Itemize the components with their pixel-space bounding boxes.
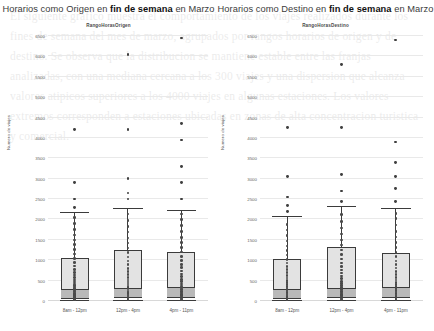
boxplot-12pm-4pm[interactable] bbox=[327, 36, 355, 301]
boxplot-4pm-11pm[interactable] bbox=[167, 36, 195, 301]
y-axis-tick-label: 2500 bbox=[35, 197, 45, 202]
chart-panel-destino: Horarios como Destino en fin de semana e… bbox=[217, 0, 434, 331]
boxplot-8am-12pm[interactable] bbox=[61, 36, 89, 301]
y-axis-tick-label: 4500 bbox=[247, 115, 257, 120]
data-point bbox=[286, 223, 289, 226]
data-point bbox=[73, 261, 76, 264]
outlier-point bbox=[127, 128, 130, 131]
whisker-cap-upper bbox=[327, 206, 357, 207]
data-point bbox=[395, 263, 398, 266]
y-axis-tick-label: 1000 bbox=[247, 258, 257, 263]
data-point bbox=[73, 279, 76, 282]
y-axis-tick-label: 1500 bbox=[247, 237, 257, 242]
y-axis-tick-label: 2500 bbox=[247, 197, 257, 202]
whisker-cap-upper bbox=[60, 212, 89, 213]
data-point bbox=[73, 271, 76, 274]
whisker-cap-upper bbox=[272, 216, 302, 217]
outlier-point bbox=[180, 165, 183, 168]
data-point bbox=[395, 270, 398, 273]
data-point bbox=[395, 281, 398, 284]
boxplot-12pm-4pm[interactable] bbox=[114, 36, 142, 301]
data-point bbox=[286, 229, 289, 232]
data-point bbox=[73, 268, 76, 271]
outlier-point bbox=[286, 196, 289, 199]
data-point bbox=[73, 234, 76, 237]
outlier-point bbox=[286, 210, 289, 213]
data-point bbox=[180, 246, 183, 249]
y-axis-tick-label: 5500 bbox=[35, 74, 45, 79]
y-axis-tick-label: 2000 bbox=[35, 217, 45, 222]
data-point bbox=[180, 236, 183, 239]
data-point bbox=[286, 245, 289, 248]
outlier-point bbox=[73, 206, 76, 209]
chart-title-destino: Horarios como Destino en fin de semana e… bbox=[217, 4, 434, 14]
data-point bbox=[286, 249, 289, 252]
chart-subtitle-origen: RangoHorasOrigen bbox=[0, 23, 217, 28]
chart-title-destino-prefix: Horarios como Destino en bbox=[218, 4, 329, 14]
y-axis-tick-label: 4000 bbox=[247, 135, 257, 140]
y-axis-tick-label: 3000 bbox=[35, 176, 45, 181]
data-point bbox=[127, 276, 130, 279]
data-point bbox=[127, 237, 130, 240]
outlier-point bbox=[394, 187, 397, 190]
y-axis-label-origen: Numero de viajes bbox=[6, 115, 11, 150]
y-axis-tick-label: 4000 bbox=[35, 135, 45, 140]
outlier-point bbox=[73, 128, 76, 131]
chart-title-destino-strong: fin de semana bbox=[329, 4, 392, 14]
chart-subtitle-destino: RangoHorasDestino bbox=[217, 23, 434, 28]
outlier-point bbox=[180, 198, 183, 201]
data-point bbox=[180, 270, 183, 273]
data-point bbox=[340, 284, 343, 287]
plot-area-destino: 0500100015002000250030003500400045005000… bbox=[260, 36, 423, 301]
chart-title-destino-suffix: en Marzo bbox=[392, 4, 434, 14]
outlier-point bbox=[127, 177, 130, 180]
outlier-point bbox=[180, 181, 183, 184]
y-axis-tick-label: 3000 bbox=[247, 176, 257, 181]
x-axis-tick-label: 8am - 12pm bbox=[275, 308, 299, 313]
outlier-point bbox=[286, 175, 289, 178]
data-point bbox=[127, 273, 130, 276]
data-point bbox=[340, 282, 343, 285]
data-point bbox=[127, 247, 130, 250]
data-point bbox=[340, 239, 343, 242]
y-axis-label-destino: Numero de viajes bbox=[220, 115, 225, 150]
data-point bbox=[73, 243, 76, 246]
boxplot-4pm-11pm[interactable] bbox=[382, 36, 410, 301]
y-axis-tick-label: 1000 bbox=[35, 258, 45, 263]
data-point bbox=[180, 275, 183, 278]
x-axis-tick-label: 12pm - 4pm bbox=[116, 308, 140, 313]
data-point bbox=[180, 280, 183, 283]
y-axis-tick-label: 500 bbox=[250, 278, 257, 283]
outlier-point bbox=[394, 161, 397, 164]
data-point bbox=[180, 263, 183, 266]
y-axis-tick-label: 0 bbox=[43, 299, 45, 304]
y-axis-tick-label: 1500 bbox=[35, 237, 45, 242]
y-axis-tick-label: 6000 bbox=[247, 54, 257, 59]
data-point bbox=[73, 216, 76, 219]
data-point bbox=[73, 257, 76, 260]
plot-area-origen: 0500100015002000250030003500400045005000… bbox=[48, 36, 208, 301]
data-point bbox=[340, 262, 343, 265]
data-point bbox=[180, 285, 183, 288]
chart-title-origen-prefix: Horarios como Origen en bbox=[2, 4, 110, 14]
data-point bbox=[180, 266, 183, 269]
data-point bbox=[180, 283, 183, 286]
outlier-point bbox=[286, 126, 289, 129]
boxplot-8am-12pm[interactable] bbox=[273, 36, 301, 301]
data-point bbox=[180, 230, 183, 233]
outlier-point bbox=[340, 63, 343, 66]
data-point bbox=[395, 241, 398, 244]
x-axis-tick-label: 4pm - 11pm bbox=[169, 308, 193, 313]
data-point bbox=[340, 277, 343, 280]
dual-chart-container: Horarios como Origen en fin de semana en… bbox=[0, 0, 434, 331]
data-point bbox=[395, 273, 398, 276]
outlier-point bbox=[73, 181, 76, 184]
y-axis-tick-label: 2000 bbox=[247, 217, 257, 222]
outlier-point bbox=[340, 173, 343, 176]
data-point bbox=[73, 228, 76, 231]
data-point bbox=[286, 234, 289, 237]
data-point bbox=[340, 280, 343, 283]
data-point bbox=[340, 258, 343, 261]
outlier-point bbox=[340, 126, 343, 129]
chart-panel-origen: Horarios como Origen en fin de semana en… bbox=[0, 0, 217, 331]
